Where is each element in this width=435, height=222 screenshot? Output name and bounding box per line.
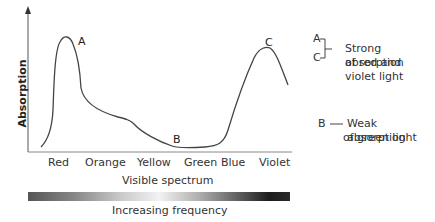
legend-c: C <box>313 51 321 65</box>
spectrum-gradient-bar <box>28 192 290 201</box>
x-tick-violet: Violet <box>259 156 290 169</box>
legend-a: A <box>313 32 321 46</box>
absorption-curve <box>41 37 288 148</box>
x-tick-yellow: Yellow <box>137 156 171 169</box>
x-tick-orange: Orange <box>85 156 126 169</box>
legend-ac-line2: of red and <box>345 56 401 70</box>
peak-label-a: A <box>78 35 86 48</box>
frequency-caption: Increasing frequency <box>112 204 227 217</box>
y-axis-arrow-icon <box>25 6 31 14</box>
absorption-chart <box>0 0 435 222</box>
x-tick-blue: Blue <box>221 156 245 169</box>
legend-bracket <box>320 39 332 58</box>
legend-b-line2: of green light <box>343 131 417 145</box>
x-axis-title: Visible spectrum <box>122 174 213 187</box>
x-tick-red: Red <box>48 156 69 169</box>
x-tick-green: Green <box>184 156 217 169</box>
peak-label-c: C <box>265 36 273 49</box>
legend-b: B <box>318 117 326 131</box>
peak-label-b: B <box>173 133 181 146</box>
legend-ac-line3: violet light <box>345 70 403 84</box>
y-axis-label: Absorption <box>16 54 29 134</box>
